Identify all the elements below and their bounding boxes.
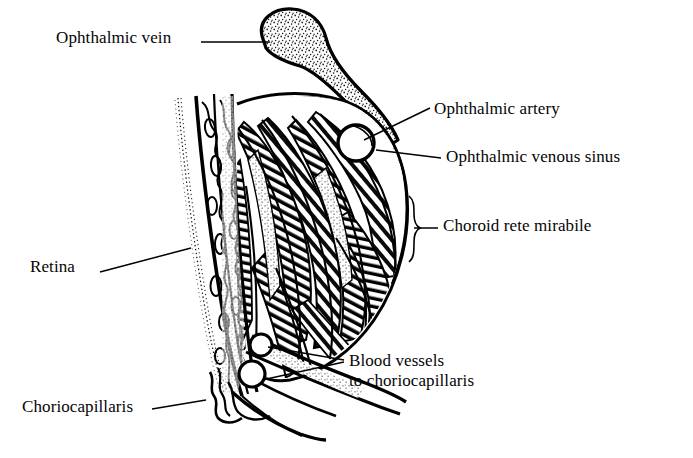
label-ophthalmic-venous-sinus: Ophthalmic venous sinus: [446, 147, 620, 167]
label-ophthalmic-artery: Ophthalmic artery: [434, 99, 560, 119]
blood-vessel-lumen-lower: [239, 361, 265, 387]
label-ophthalmic-vein: Ophthalmic vein: [56, 28, 171, 48]
label-blood-vessels-to-choriocapillaris: Blood vessels to choriocapillaris: [349, 351, 474, 391]
leader-choriocapillaris: [152, 400, 206, 409]
label-choriocapillaris: Choriocapillaris: [22, 397, 133, 417]
label-retina: Retina: [30, 257, 75, 277]
brace-choroid-rete-mirabile: [409, 196, 420, 262]
ophthalmic-artery-structure: [338, 125, 374, 161]
label-choroid-rete-mirabile: Choroid rete mirabile: [443, 216, 591, 236]
blood-vessel-lumen-upper: [250, 334, 272, 356]
leader-retina: [100, 248, 191, 272]
